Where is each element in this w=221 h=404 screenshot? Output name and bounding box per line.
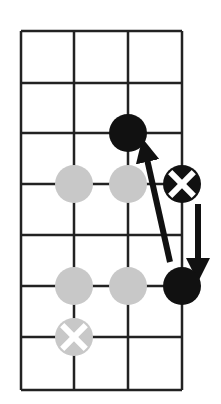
arrow-diagonal-up-icon <box>145 150 170 262</box>
gray-stone <box>55 165 93 203</box>
gray-stone <box>109 267 147 305</box>
black-stone <box>109 114 147 152</box>
black-stone-x-marked <box>163 165 201 203</box>
gray-stone <box>55 267 93 305</box>
go-diagram <box>0 0 221 404</box>
gray-stone <box>109 165 147 203</box>
gray-stone-x-marked <box>55 318 93 356</box>
black-stone <box>163 267 201 305</box>
